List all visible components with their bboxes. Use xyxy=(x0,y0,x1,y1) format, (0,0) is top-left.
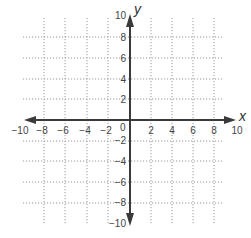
y-axis-down-arrow-icon xyxy=(126,213,134,226)
x-tick: 8 xyxy=(211,125,217,136)
y-tick: −6 xyxy=(115,177,127,188)
x-tick: 10 xyxy=(231,125,243,136)
x-tick: 6 xyxy=(190,125,196,136)
x-tick-labels: −10 −8 −6 −4 −2 2 4 6 8 10 xyxy=(12,125,243,136)
y-axis-up-arrow-icon xyxy=(126,14,134,27)
x-tick: −4 xyxy=(79,125,91,136)
x-tick: −10 xyxy=(12,125,29,136)
y-tick: 2 xyxy=(120,94,126,105)
y-tick: −8 xyxy=(115,197,127,208)
y-tick: 4 xyxy=(120,74,126,85)
coordinate-plane: x y −10 −8 −6 −4 −2 2 4 6 8 10 0 10 8 6 … xyxy=(0,0,251,238)
x-tick: −6 xyxy=(57,125,69,136)
x-tick: −2 xyxy=(100,125,112,136)
y-axis-label: y xyxy=(133,1,142,17)
origin-label: 0 xyxy=(120,122,126,133)
x-axis-label: x xyxy=(238,108,247,124)
x-axis-left-arrow-icon xyxy=(24,116,36,124)
x-tick: −8 xyxy=(36,125,48,136)
y-tick: −2 xyxy=(115,135,127,146)
y-tick: −10 xyxy=(109,218,126,229)
x-tick: 4 xyxy=(169,125,175,136)
y-tick: 10 xyxy=(115,10,127,21)
y-tick: 8 xyxy=(120,32,126,43)
x-tick: 2 xyxy=(148,125,154,136)
x-axis-right-arrow-icon xyxy=(224,116,236,124)
y-tick: 6 xyxy=(120,53,126,64)
y-tick: −4 xyxy=(115,156,127,167)
